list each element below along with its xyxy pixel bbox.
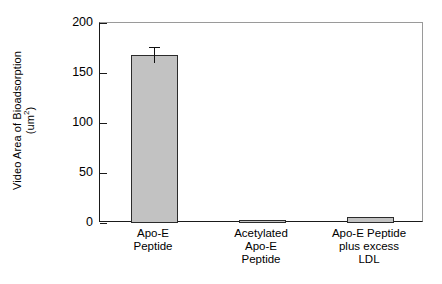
error-bar-cap-upper-0 [149, 47, 160, 48]
x-axis-label-2: Apo-E Peptide plus excess LDL [315, 227, 423, 267]
plot-area [99, 22, 423, 222]
y-axis-unit-prefix: (um [23, 115, 35, 134]
bar-0 [131, 55, 178, 223]
error-bar-line-0 [154, 47, 155, 63]
bar-2 [347, 217, 394, 223]
x-axis-category-labels: Apo-E PeptideAcetylated Apo-E PeptideApo… [99, 227, 423, 284]
y-axis-tick-0 [100, 223, 107, 224]
bar-chart-figure: Video Area of Bioadsorption (um2) 050100… [0, 0, 442, 284]
bar-1 [239, 220, 286, 223]
y-axis-title-line1: Video Area of Bioadsorption [11, 51, 24, 190]
y-axis-unit-suffix: ) [23, 106, 35, 110]
x-axis-label-0: Apo-E Peptide [99, 227, 207, 253]
y-axis-tick-label-150: 150 [47, 66, 93, 79]
y-axis-tick-labels: 050100150200 [45, 22, 93, 222]
y-axis-tick-label-200: 200 [47, 16, 93, 29]
y-axis-tick-label-100: 100 [47, 116, 93, 129]
x-axis-label-1: Acetylated Apo-E Peptide [207, 227, 315, 267]
y-axis-title: Video Area of Bioadsorption (um2) [0, 0, 46, 240]
y-axis-title-text: Video Area of Bioadsorption (um2) [11, 51, 36, 190]
y-axis-title-line2: (um2) [23, 51, 36, 190]
bars-layer [100, 23, 422, 221]
y-axis-tick-label-0: 0 [47, 216, 93, 229]
y-axis-tick-label-50: 50 [47, 166, 93, 179]
